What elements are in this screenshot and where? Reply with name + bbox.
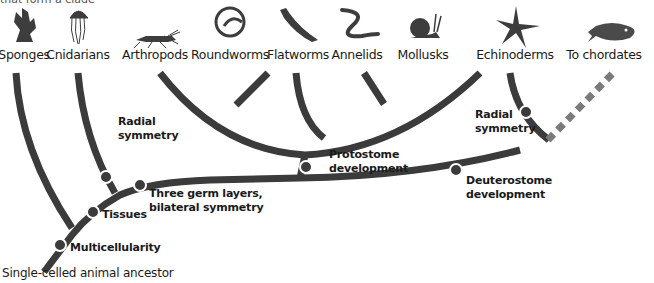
trait-label-tissues: Tissues: [102, 208, 147, 222]
trait-label-multicellularity: Multicellularity: [70, 241, 161, 255]
dot-protostome: [300, 161, 312, 173]
flatworm-branch: [296, 73, 324, 138]
root-label: Single-celled animal ancestor: [2, 266, 174, 280]
trait-label-protostome: Protostomedevelopment: [329, 148, 408, 176]
taxon-label-cnidarians: Cnidarians: [46, 47, 109, 62]
chordate-branch-dashed: [548, 72, 614, 140]
taxon-label-chordates: To chordates: [566, 47, 642, 62]
starfish-icon: [496, 6, 540, 48]
dot-multicellularity: [54, 239, 66, 251]
dot-radial-cnidarian: [100, 171, 112, 183]
grasshopper-icon: [134, 30, 180, 48]
annelid-icon: [342, 10, 378, 36]
annelid-branch: [364, 73, 384, 104]
dot-deuterostome: [450, 164, 462, 176]
arthropod-roundworm-branch: [236, 73, 268, 105]
sponge-icon: [14, 8, 36, 42]
trait-label-deuterostome: Deuterostomedevelopment: [466, 174, 552, 202]
roundworm-icon: [216, 8, 244, 36]
dot-tissues: [87, 206, 99, 218]
taxon-label-annelids: Annelids: [331, 47, 382, 62]
taxon-label-echinoderms: Echinoderms: [476, 47, 554, 62]
flatworm-icon: [280, 8, 318, 42]
sponge-branch: [16, 73, 72, 228]
snail-icon: [410, 14, 441, 38]
trait-label-radial-symmetry-echinoderms: Radialsymmetry: [475, 108, 535, 136]
taxon-label-mollusks: Mollusks: [397, 47, 448, 62]
taxon-label-roundworms: Roundworms: [191, 47, 269, 62]
taxon-label-sponges: Sponges: [0, 47, 50, 62]
trait-label-radial-symmetry-cnidarians: Radialsymmetry: [118, 115, 178, 143]
protostome-arc: [160, 73, 480, 155]
dot-germ-layers: [134, 179, 146, 191]
trait-label-three-germ-layers: Three germ layers,bilateral symmetry: [149, 187, 263, 215]
fish-icon: [588, 23, 635, 42]
jellyfish-icon: [70, 11, 88, 44]
taxon-label-flatworms: Flatworms: [267, 47, 329, 62]
taxon-label-arthropods: Arthropods: [122, 47, 188, 62]
